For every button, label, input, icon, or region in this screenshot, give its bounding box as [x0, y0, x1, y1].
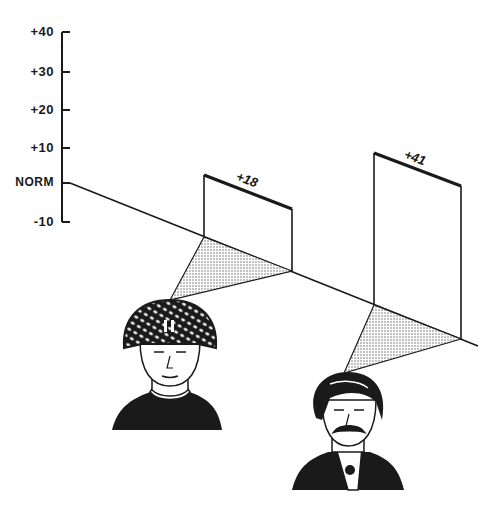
diagram: +40 +30 +20 +10 NORM -10 +18 +41: [0, 0, 500, 506]
civilian-figure-icon: [292, 372, 404, 490]
y-axis: [62, 32, 70, 222]
tick-label-plus-30: +30: [4, 64, 54, 79]
tick-label-norm: NORM: [4, 175, 54, 189]
soldier-figure-icon: [112, 300, 222, 430]
tick-label-plus-20: +20: [4, 102, 54, 117]
bar-1: [170, 175, 292, 300]
bar-2: [344, 153, 461, 373]
bar-1-shadow: [170, 237, 292, 300]
tick-label-plus-40: +40: [4, 24, 54, 39]
tick-label-minus-10: -10: [4, 214, 54, 229]
tick-label-plus-10: +10: [4, 140, 54, 155]
diagram-svg: [0, 0, 500, 506]
